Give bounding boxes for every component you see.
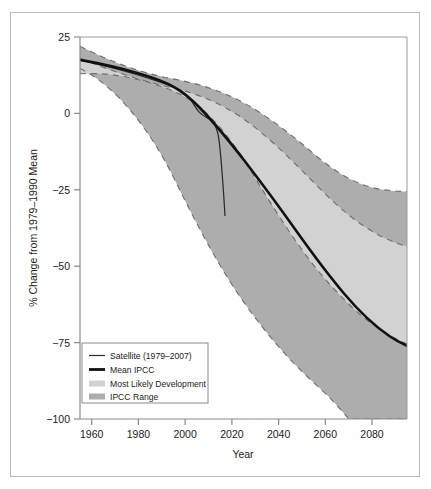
y-tick-label-0: 25	[58, 31, 70, 43]
y-tick-marks	[74, 37, 80, 419]
y-tick-label-4: −75	[52, 337, 70, 349]
x-tick-label-1: 1980	[127, 428, 151, 440]
legend-swatch-ipcc-range	[89, 394, 105, 400]
chart-legend[interactable]: Satellite (1979–2007) Mean IPCC Most Lik…	[82, 343, 208, 403]
x-tick-label-3: 2020	[220, 428, 244, 440]
figure-root: 25 0 −25 −50 −75 −100 1960 1980 2000 202…	[0, 0, 431, 489]
x-tick-label-5: 2060	[314, 428, 338, 440]
y-tick-label-2: −25	[52, 184, 70, 196]
legend-label-most-likely: Most Likely Development	[110, 379, 207, 389]
legend-label-mean-ipcc: Mean IPCC	[110, 365, 154, 375]
y-axis-title: % Change from 1979–1990 Mean	[27, 149, 39, 307]
y-tick-label-3: −50	[52, 260, 70, 272]
x-tick-label-4: 2040	[267, 428, 291, 440]
y-tick-label-5: −100	[46, 413, 70, 425]
x-tick-label-0: 1960	[80, 428, 104, 440]
x-tick-label-2: 2000	[173, 428, 197, 440]
x-tick-label-6: 2080	[360, 428, 384, 440]
x-tick-marks	[92, 419, 372, 425]
x-axis-title: Year	[232, 448, 254, 460]
legend-label-ipcc-range: IPCC Range	[110, 392, 158, 402]
legend-swatch-most-likely	[89, 381, 105, 387]
line-chart: 25 0 −25 −50 −75 −100 1960 1980 2000 202…	[0, 0, 431, 489]
y-tick-label-1: 0	[64, 107, 70, 119]
legend-label-satellite: Satellite (1979–2007)	[110, 351, 192, 361]
